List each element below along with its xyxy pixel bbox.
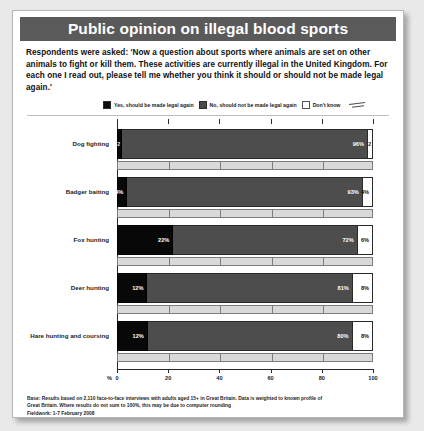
bar-value-label: 93% xyxy=(348,189,362,195)
bar-segment-no[interactable]: 96% xyxy=(122,129,368,159)
category-label: Deer hunting xyxy=(71,284,109,291)
chart-card: Public opinion on illegal blood sports R… xyxy=(12,10,404,418)
bar-row[interactable]: 12%81%8% xyxy=(117,273,373,303)
bar-shadow-plate xyxy=(117,353,373,362)
bar-segment-yes[interactable]: 4% xyxy=(117,177,127,207)
x-axis-tick-label: 40 xyxy=(216,375,222,381)
category-label: Fox hunting xyxy=(74,236,109,243)
x-axis-percent-symbol: % xyxy=(107,375,112,381)
x-axis-tick-label: 100 xyxy=(368,375,377,381)
value-axis-tick-top xyxy=(219,119,220,124)
bar-value-label: 12% xyxy=(132,285,146,291)
bar-value-label: 72% xyxy=(342,237,356,243)
page-title: Public opinion on illegal blood sports xyxy=(68,20,348,38)
category-label: Hare hunting and coursing xyxy=(30,332,109,339)
value-axis-tick-top xyxy=(271,119,272,124)
x-axis-tick xyxy=(168,369,169,373)
bar-segment-yes[interactable]: 22% xyxy=(117,225,173,255)
bar-segment-yes[interactable]: 12% xyxy=(117,321,148,351)
bar-value-label: 2 xyxy=(117,141,121,147)
legend-label-dontknow: Don't know xyxy=(313,102,341,108)
footnote-base: Base: Results based on 2,110 face-to-fac… xyxy=(27,395,327,410)
chart-title-bar: Public opinion on illegal blood sports xyxy=(20,17,396,41)
bar-row[interactable]: 296%2 xyxy=(117,129,373,159)
x-axis-tick-label: 20 xyxy=(165,375,171,381)
bar-row[interactable]: 4%93%4% xyxy=(117,177,373,207)
x-axis-tick xyxy=(271,369,272,373)
bar-value-label: 8% xyxy=(361,285,372,291)
bar-value-label: 2 xyxy=(368,141,372,147)
bar-shadow-plate xyxy=(117,257,373,266)
bar-segment-no[interactable]: 72% xyxy=(173,225,357,255)
x-axis-tick xyxy=(219,369,220,373)
bar-segment-dontknow[interactable]: 2 xyxy=(368,129,373,159)
x-axis-tick-label: 60 xyxy=(267,375,273,381)
legend-swatch-dontknow-icon xyxy=(302,101,310,109)
bar-value-label: 81% xyxy=(338,285,352,291)
bar-value-label: 12% xyxy=(133,333,147,339)
legend-swatch-yes-icon xyxy=(103,101,111,109)
value-axis-tick-top xyxy=(373,119,374,124)
legend-label-no: No, should not be made legal again xyxy=(210,102,297,108)
value-axis-tick-top xyxy=(117,119,118,124)
bar-row[interactable]: 12%80%8% xyxy=(117,321,373,351)
intro-question-text: Respondents were asked: 'Now a question … xyxy=(26,47,392,94)
footnote-block: Base: Results based on 2,110 face-to-fac… xyxy=(27,395,327,417)
chart-plot-area: Dog fightingBadger baitingFox huntingDee… xyxy=(27,123,391,385)
bar-segment-dontknow[interactable]: 8% xyxy=(353,321,373,351)
category-label: Badger baiting xyxy=(66,188,109,195)
bar-shadow-plate xyxy=(117,209,373,218)
bar-segment-dontknow[interactable]: 8% xyxy=(353,273,373,303)
screenshot-root: Public opinion on illegal blood sports R… xyxy=(0,0,424,431)
legend-label-yes: Yes, should be made legal again xyxy=(114,102,194,108)
bar-value-label: 22% xyxy=(158,237,172,243)
x-axis-tick xyxy=(322,369,323,373)
legend-decorative-lines-icon xyxy=(349,102,365,108)
bar-segment-dontknow[interactable]: 4% xyxy=(363,177,373,207)
legend-item-yes: Yes, should be made legal again xyxy=(103,101,194,109)
value-axis-tick-top xyxy=(168,119,169,124)
footnote-fieldwork: Fieldwork: 1-7 February 2008 xyxy=(27,410,327,417)
bar-value-label: 8% xyxy=(361,333,372,339)
bar-row[interactable]: 22%72%6% xyxy=(117,225,373,255)
legend-item-no: No, should not be made legal again xyxy=(199,101,297,109)
legend-divider xyxy=(27,115,389,116)
category-label: Dog fighting xyxy=(73,140,109,147)
x-axis-tick-label: 0 xyxy=(115,375,118,381)
bar-value-label: 4% xyxy=(115,189,126,195)
bar-segment-yes[interactable]: 12% xyxy=(117,273,147,303)
bar-value-label: 96% xyxy=(353,141,367,147)
bar-segment-no[interactable]: 80% xyxy=(148,321,353,351)
bar-shadow-plate xyxy=(117,161,373,170)
x-axis-tick-label: 80 xyxy=(319,375,325,381)
bar-value-label: 80% xyxy=(337,333,351,339)
bar-value-label: 6% xyxy=(361,237,372,243)
x-axis-tick xyxy=(373,369,374,373)
x-axis-tick xyxy=(117,369,118,373)
category-axis-labels: Dog fightingBadger baitingFox huntingDee… xyxy=(27,123,113,369)
chart-legend: Yes, should be made legal again No, shou… xyxy=(103,99,393,111)
bar-value-label: 4% xyxy=(361,189,372,195)
bar-segment-no[interactable]: 81% xyxy=(147,273,352,303)
bar-shadow-plate xyxy=(117,305,373,314)
legend-item-dontknow: Don't know xyxy=(302,101,341,109)
value-axis-tick-top xyxy=(322,119,323,124)
bar-segment-no[interactable]: 93% xyxy=(127,177,363,207)
bar-segment-dontknow[interactable]: 6% xyxy=(358,225,373,255)
bar-group-container: 296%24%93%4%22%72%6%12%81%8%12%80%8% xyxy=(117,123,373,369)
x-axis-line xyxy=(117,369,373,370)
legend-swatch-no-icon xyxy=(199,101,207,109)
